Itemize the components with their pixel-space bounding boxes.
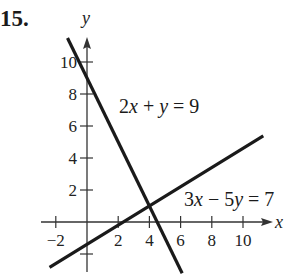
equation-term: = 7 [243, 188, 274, 210]
y-axis-label: y [80, 8, 90, 28]
y-tick-label: 8 [69, 85, 78, 104]
graph: −2246810246810 xy2x + y = 93x − 5y = 7 [0, 0, 287, 274]
equation-term: + [138, 95, 159, 117]
equation-term: x [128, 95, 138, 117]
equation-term: x [193, 188, 203, 210]
x-axis-label: x [274, 212, 283, 232]
equation-term: y [157, 95, 168, 118]
x-tick-label: −2 [47, 231, 65, 250]
equation-term: y [232, 188, 243, 211]
equation-lines [50, 38, 264, 273]
axis-ticks: −2246810246810 [47, 53, 252, 254]
equation-term: 2 [119, 95, 129, 117]
y-tick-label: 2 [69, 181, 78, 200]
x-tick-label: 10 [235, 231, 252, 250]
y-tick-label: 4 [69, 149, 78, 168]
equation-term: 3 [184, 188, 194, 210]
x-tick-label: 6 [176, 231, 185, 250]
equation-label-2: 3x − 5y = 7 [184, 188, 274, 211]
equation-term: = 9 [168, 95, 199, 117]
x-tick-label: 8 [208, 231, 217, 250]
axis-and-equation-labels: xy2x + y = 93x − 5y = 7 [80, 8, 283, 232]
equation-term: − 5 [203, 188, 234, 210]
equation-line-1 [68, 38, 183, 273]
x-tick-label: 2 [114, 231, 123, 250]
y-tick-label: 6 [69, 117, 78, 136]
x-tick-label: 4 [145, 231, 154, 250]
equation-label-1: 2x + y = 9 [119, 95, 199, 118]
